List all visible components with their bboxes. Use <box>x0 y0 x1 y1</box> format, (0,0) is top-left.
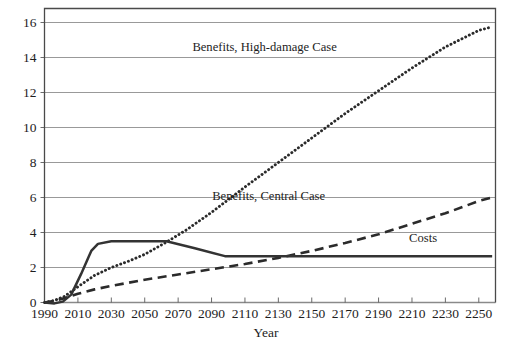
x-tick-label-2150: 2150 <box>298 306 325 321</box>
x-tick-label-2210: 2210 <box>398 306 425 321</box>
series-annotation-0: Benefits, High-damage Case <box>192 40 337 54</box>
x-axis-title: Year <box>254 325 279 340</box>
chart-figure: 0246810121416 19902010203020502070209021… <box>0 0 512 352</box>
y-tick-label-10: 10 <box>23 120 37 135</box>
y-tick-label-12: 12 <box>23 85 37 100</box>
y-tick-label-8: 8 <box>30 155 37 170</box>
y-tick-label-16: 16 <box>23 15 37 30</box>
x-tick-label-2030: 2030 <box>98 306 125 321</box>
y-tick-label-4: 4 <box>30 225 37 240</box>
x-tick-label-2090: 2090 <box>198 306 225 321</box>
series-annotation-1: Benefits, Central Case <box>212 189 325 203</box>
x-tick-label-2230: 2230 <box>432 306 459 321</box>
x-tick-label-2070: 2070 <box>165 306 192 321</box>
x-tick-label-2190: 2190 <box>365 306 392 321</box>
y-tick-label-6: 6 <box>30 190 37 205</box>
x-tick-label-2110: 2110 <box>232 306 259 321</box>
x-tick-label-2170: 2170 <box>332 306 359 321</box>
x-tick-label-2250: 2250 <box>465 306 492 321</box>
x-tick-label-1990: 1990 <box>31 306 58 321</box>
y-tick-label-14: 14 <box>23 50 37 65</box>
x-tick-label-2130: 2130 <box>265 306 292 321</box>
x-tick-label-2010: 2010 <box>64 306 91 321</box>
line-chart-canvas: 0246810121416 19902010203020502070209021… <box>0 0 512 352</box>
series-annotation-2: Costs <box>409 231 437 245</box>
y-tick-label-2: 2 <box>30 260 37 275</box>
x-tick-label-2050: 2050 <box>131 306 158 321</box>
